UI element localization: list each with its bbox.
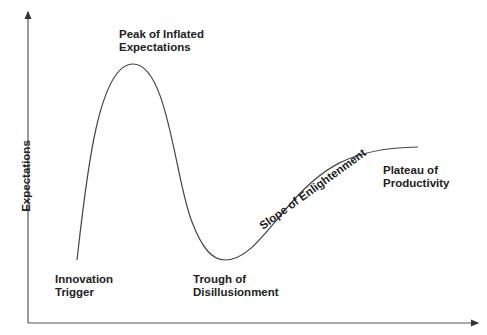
peak-label: Peak of Inflated Expectations: [119, 28, 204, 54]
plateau-label: Plateau of Productivity: [383, 164, 449, 190]
trough-label: Trough of Disillusionment: [193, 273, 279, 299]
hype-curve: [77, 64, 418, 260]
trigger-label: Innovation Trigger: [55, 273, 113, 299]
slope-label: Slope of Enlightenment: [257, 146, 368, 231]
y-axis-label: Expectations: [20, 136, 32, 216]
